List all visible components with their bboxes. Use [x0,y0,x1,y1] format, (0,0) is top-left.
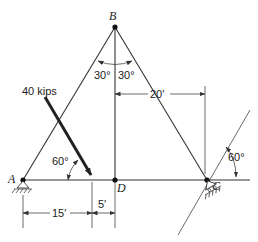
angle-label-B-right: 30° [118,69,135,81]
angle-arcs-B: 30° 30° [94,61,135,81]
load-label: 40 kips [22,85,57,97]
angle-label-C: 60° [228,151,245,163]
incline-line-C [178,110,250,235]
angle-label-B-left: 30° [94,69,111,81]
load-angle-label: 60° [52,155,69,167]
dimension-5ft: 5′ [98,198,106,210]
node-label-D: D [116,181,126,195]
truss-diagram: 30° 30° 40 kips 60° 60° B A D C [0,0,258,242]
node-label-A: A [7,172,16,186]
dimension-20ft: 20′ [150,88,164,100]
member-AB [23,27,115,180]
member-BC [115,27,207,180]
load-40-kips: 40 kips 60° [22,85,91,180]
node-B [112,24,117,29]
angle-arc-C: 60° [226,147,245,177]
node-label-B: B [109,9,117,23]
dimension-20ft-group: 20′ [115,86,205,174]
nodes: B A D C [7,9,221,195]
dimension-15ft: 15′ [52,207,66,219]
dimension-bottom: 15′ 5′ [23,182,115,228]
